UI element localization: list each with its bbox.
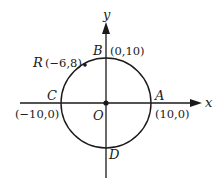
point-c-coords: (−10,0) [15, 107, 59, 121]
point-c-label: C [47, 88, 57, 103]
origin-point [103, 100, 108, 105]
x-axis-arrow-icon [190, 99, 202, 107]
coordinate-circle-diagram: x y O B (0,10) R (−6,8) C (−10,0) A (10,… [0, 0, 220, 191]
point-a-coords: (10,0) [155, 107, 190, 121]
point-b-label: B [92, 43, 103, 58]
point-a-label: A [154, 88, 164, 103]
point-r-coords: (−6,8) [45, 56, 82, 70]
point-d-label: D [108, 147, 120, 162]
y-axis-arrow-icon [102, 22, 110, 34]
point-b-coords: (0,10) [110, 44, 145, 58]
y-axis-label: y [102, 7, 111, 22]
origin-label: O [93, 108, 104, 123]
point-r-label: R [32, 55, 43, 70]
point-r [83, 63, 87, 67]
x-axis-label: x [205, 95, 213, 110]
